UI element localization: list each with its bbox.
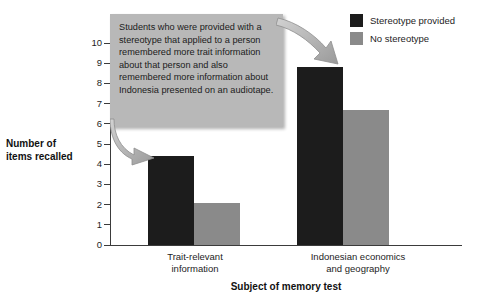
x-axis-title: Subject of memory test	[110, 281, 462, 292]
legend-swatch-icon	[350, 14, 363, 27]
annotation-callout: Students who were provided with a stereo…	[110, 14, 283, 127]
y-tick-label: 9	[76, 58, 102, 68]
category-label-trait-relevant: Trait-relevant information	[120, 251, 270, 275]
y-tick-label: 3	[76, 179, 102, 189]
legend-item-stereotype-provided: Stereotype provided	[350, 14, 455, 27]
legend-item-no-stereotype: No stereotype	[350, 32, 455, 45]
annotation-callout-text: Students who were provided with a stereo…	[119, 21, 275, 97]
legend-item-label: No stereotype	[370, 33, 429, 44]
legend-swatch-icon	[350, 32, 363, 45]
category-label-line2: information	[120, 263, 270, 275]
y-tick-label: 10	[76, 38, 102, 48]
legend-item-label: Stereotype provided	[370, 15, 455, 26]
y-tick-label: 5	[76, 139, 102, 149]
bar-chart: Number of items recalled 012345678910 Tr…	[0, 0, 483, 306]
y-tick-label: 0	[76, 240, 102, 250]
legend: Stereotype provided No stereotype	[350, 14, 455, 50]
y-tick-label: 6	[76, 119, 102, 129]
bar-1-0	[297, 67, 343, 245]
x-axis-line	[110, 245, 462, 246]
y-tick-label: 1	[76, 220, 102, 230]
y-tick-label: 2	[76, 200, 102, 210]
bar-1-1	[343, 110, 389, 245]
category-label-indonesian-economics: Indonesian economics and geography	[268, 251, 448, 275]
y-tick-label: 8	[76, 78, 102, 88]
category-label-line2: and geography	[268, 263, 448, 275]
bar-0-1	[194, 203, 240, 245]
y-tick-label: 7	[76, 99, 102, 109]
category-label-line1: Indonesian economics	[268, 251, 448, 263]
y-tick-label: 4	[76, 159, 102, 169]
bar-0-0	[148, 156, 194, 245]
category-label-line1: Trait-relevant	[120, 251, 270, 263]
